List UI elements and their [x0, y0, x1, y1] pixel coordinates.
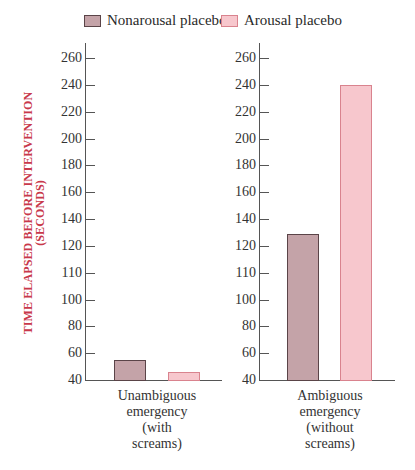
y-tick: [260, 112, 269, 113]
category-label-line: (with: [92, 420, 222, 436]
y-tick: [260, 219, 269, 220]
y-tick-label: 100: [226, 293, 256, 307]
y-tick: [86, 85, 95, 86]
category-label-line: screams): [265, 436, 395, 452]
y-tick-label: 80: [52, 319, 82, 333]
y-tick-label: 120: [226, 239, 256, 253]
y-tick: [260, 300, 269, 301]
y-tick: [86, 192, 95, 193]
category-label-line: (without: [265, 420, 395, 436]
legend-swatch-arousal: [221, 15, 238, 27]
y-tick: [260, 273, 269, 274]
y-tick: [260, 58, 269, 59]
y-tick-label: 180: [52, 158, 82, 172]
x-axis-line: [85, 380, 222, 381]
y-tick-label: 160: [52, 185, 82, 199]
y-tick-label: 40: [226, 373, 256, 387]
y-tick-label: 60: [52, 346, 82, 360]
legend-item-arousal: Arousal placebo: [221, 12, 342, 29]
y-tick: [260, 165, 269, 166]
y-tick: [86, 246, 95, 247]
y-tick-label: 260: [226, 51, 256, 65]
y-tick-label: 80: [226, 319, 256, 333]
y-tick-label: 60: [226, 346, 256, 360]
x-axis-line: [259, 380, 395, 381]
y-tick-label: 220: [226, 105, 256, 119]
category-label-line: emergency: [265, 404, 395, 420]
y-tick-label: 200: [52, 132, 82, 146]
category-label: Ambiguousemergency(withoutscreams): [265, 388, 395, 452]
y-tick: [260, 85, 269, 86]
category-label: Unambiguousemergency(withscreams): [92, 388, 222, 452]
category-label-line: screams): [92, 436, 222, 452]
y-tick-label: 120: [52, 239, 82, 253]
bar-arousal: [168, 372, 200, 381]
y-axis-line: [85, 43, 86, 381]
y-tick: [86, 139, 95, 140]
y-tick: [86, 273, 95, 274]
y-tick: [86, 219, 95, 220]
y-tick: [86, 353, 95, 354]
y-tick: [260, 192, 269, 193]
y-tick-label: 160: [226, 185, 256, 199]
y-tick-label: 220: [52, 105, 82, 119]
y-tick: [86, 300, 95, 301]
y-tick-label: 100: [52, 293, 82, 307]
bar-nonarousal: [114, 360, 146, 381]
y-axis-line: [259, 43, 260, 381]
y-tick-label: 260: [52, 51, 82, 65]
y-axis-title-line-2: (SECONDS): [34, 92, 46, 335]
y-tick-label: 240: [226, 78, 256, 92]
y-tick-label: 140: [52, 212, 82, 226]
category-label-line: emergency: [92, 404, 222, 420]
y-tick: [86, 165, 95, 166]
bar-nonarousal: [287, 234, 319, 381]
legend-swatch-nonarousal: [84, 15, 101, 27]
y-tick: [260, 246, 269, 247]
legend: Nonarousal placebo Arousal placebo: [0, 12, 415, 32]
y-tick-label: 200: [226, 132, 256, 146]
y-tick: [86, 112, 95, 113]
y-tick-label: 140: [226, 212, 256, 226]
y-tick: [260, 326, 269, 327]
y-tick: [260, 353, 269, 354]
legend-label: Nonarousal placebo: [107, 12, 227, 29]
y-axis-title: TIME ELAPSED BEFORE INTERVENTION (SECOND…: [22, 92, 46, 335]
category-label-line: Ambiguous: [265, 388, 395, 404]
category-label-line: Unambiguous: [92, 388, 222, 404]
y-tick-label: 110: [226, 266, 256, 280]
bar-arousal: [340, 85, 372, 381]
y-tick: [86, 58, 95, 59]
y-tick: [260, 139, 269, 140]
legend-label: Arousal placebo: [244, 12, 342, 29]
y-tick-label: 40: [52, 373, 82, 387]
legend-item-nonarousal: Nonarousal placebo: [84, 12, 227, 29]
y-tick-label: 240: [52, 78, 82, 92]
y-tick-label: 180: [226, 158, 256, 172]
y-tick: [86, 326, 95, 327]
y-tick-label: 110: [52, 266, 82, 280]
